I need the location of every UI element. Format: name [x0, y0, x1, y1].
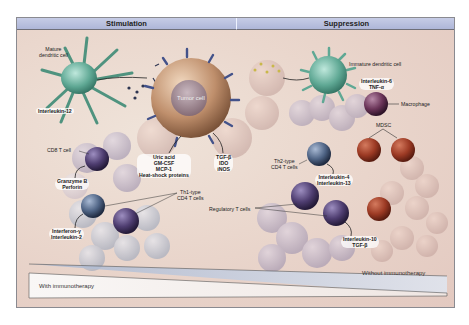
macrophage-label: Macrophage [401, 101, 430, 107]
immature-dendritic-cell-body [309, 56, 347, 94]
mdsc-label: MDSC [376, 122, 391, 128]
regulatory-t-cell [291, 182, 319, 210]
mdsc-cell [367, 197, 391, 221]
immature-dendritic-cell-label: Immature dendritic cell [349, 61, 401, 67]
treg-factors: Interleukin-10TGF-β [341, 236, 379, 248]
th1-factors: Interferon-γInterleukin-2 [49, 228, 84, 240]
th1-cell [113, 208, 139, 234]
th2-factors: Interleukin-4Interleukin-13 [315, 174, 353, 186]
regulatory-t-cells-label: Regulatory T cells [209, 206, 250, 212]
cd8-factors: Granzyme BPerforin [55, 178, 89, 190]
tumor-factors-suppressive: TGF-βIDOiNOS [214, 154, 233, 172]
mdsc-cell [391, 138, 415, 162]
th1-cell [81, 194, 105, 218]
mature-dendritic-cell-body [61, 62, 97, 94]
immature-dc-factors: Interleukin-6TNF-α [359, 78, 394, 90]
th1-label: Th1-type CD4 T cells [177, 189, 204, 201]
macrophage [364, 92, 388, 116]
cd8-t-cell [85, 147, 109, 171]
mdsc-cell [357, 138, 381, 162]
macrophage-ghost-cluster [289, 94, 369, 131]
il12-molecules [127, 84, 144, 99]
tumor-cell-label: Tumor cell [177, 95, 205, 101]
mature-dendritic-cell-label: Mature dendritic cell [39, 46, 68, 58]
without-immunotherapy-label: Without immunotherapy [362, 270, 425, 276]
with-immunotherapy-label: With immunotherapy [39, 283, 94, 289]
tumor-factors-stimulating: Uric acidGM-CSFMCP-1Heat-shock proteins [137, 154, 191, 178]
diagram-panel: Stimulation Suppression [16, 17, 455, 308]
cd8-t-cell-label: CD8 T cell [47, 147, 71, 153]
th2-label: Th2-type CD4 T cells [271, 158, 298, 170]
il12-label: Interleukin-12 [36, 108, 74, 114]
th2-cell [307, 142, 331, 166]
